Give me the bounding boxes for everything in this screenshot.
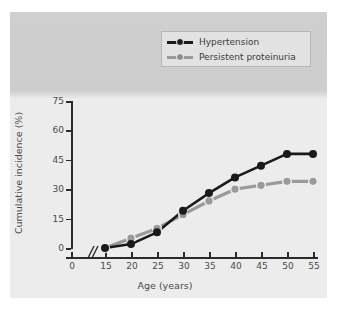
data-point — [309, 150, 317, 158]
data-point — [257, 181, 266, 190]
series-layer — [0, 0, 337, 309]
data-point — [231, 173, 239, 181]
data-point — [179, 207, 187, 215]
data-point — [101, 244, 109, 252]
data-point — [231, 185, 240, 194]
data-point — [283, 150, 291, 158]
data-point — [205, 189, 213, 197]
chart-figure: Hypertension Persistent proteinuria 75 6… — [0, 0, 337, 309]
data-point — [257, 162, 265, 170]
data-point — [283, 177, 292, 186]
data-point — [153, 228, 161, 236]
data-point — [309, 177, 318, 186]
plot-area: 75 60 45 30 15 0 0 15 20 25 30 35 40 45 … — [0, 0, 337, 309]
data-point — [205, 197, 214, 206]
data-point — [127, 240, 135, 248]
